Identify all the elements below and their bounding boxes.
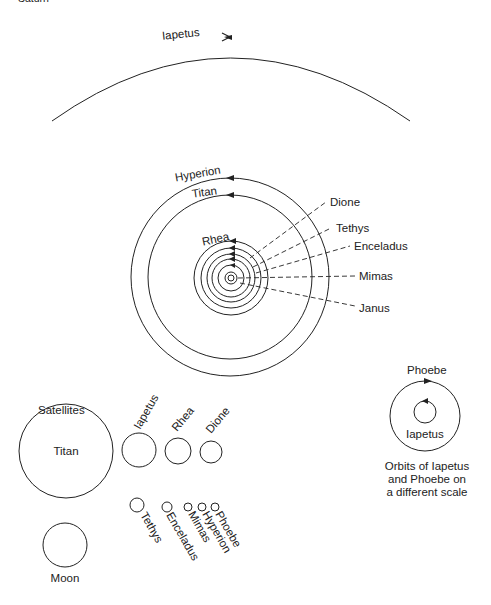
- arrow-icon: [229, 251, 235, 257]
- phoebe-iapetus-inset: Phoebe Iapetus Orbits of Iapetus and Pho…: [385, 364, 470, 498]
- iapetus-body-label: Iapetus: [131, 392, 160, 431]
- janus-callout-label: Janus: [359, 302, 390, 314]
- enceladus-callout-line: [256, 246, 350, 273]
- satellite-size-comparison: Satellites Titan Iapetus Rhea Dione Teth…: [19, 392, 243, 584]
- arrow-icon: [229, 256, 235, 262]
- phoebe-orbit: [390, 381, 460, 451]
- hyperion-body: [198, 503, 206, 511]
- arrow-icon: [226, 192, 234, 198]
- dione-callout-label: Dione: [330, 196, 360, 208]
- titan-body-label: Titan: [53, 445, 78, 457]
- hyperion-orbit: [131, 178, 329, 376]
- arrow-icon: [229, 245, 235, 251]
- rhea-body-label: Rhea: [169, 404, 196, 433]
- enceladus-callout-label: Enceladus: [354, 240, 408, 252]
- phoebe-inset-label: Phoebe: [407, 364, 447, 376]
- mimas-body: [184, 503, 192, 511]
- janus-callout-line: [240, 283, 355, 306]
- iapetus-orbit-label: Iapetus: [161, 26, 200, 42]
- arrow-icon: [226, 175, 234, 181]
- phoebe-body: [211, 503, 219, 511]
- enceladus-body: [162, 502, 172, 512]
- titan-orbit-label: Titan: [191, 184, 218, 199]
- cropped-title: Saturn: [18, 0, 49, 4]
- saturn-satellite-diagram: Saturn Iapetus Hyperion Titan Rhea: [0, 0, 491, 605]
- inset-caption-line-1: Orbits of Iapetus: [385, 460, 470, 472]
- moon-body: [43, 523, 87, 567]
- tethys-callout-label: Tethys: [336, 222, 369, 234]
- inset-caption-line-2: and Phoebe on: [388, 473, 466, 485]
- iapetus-body: [122, 433, 156, 467]
- iapetus-inset-label: Iapetus: [406, 428, 444, 440]
- janus-orbit: [225, 272, 237, 284]
- inset-caption-line-3: a different scale: [387, 486, 468, 498]
- iapetus-inset-orbit: [414, 401, 436, 423]
- inner-orbit-system: Hyperion Titan Rhea Dione Tethys Encelad…: [131, 164, 408, 376]
- mimas-callout-label: Mimas: [359, 270, 393, 282]
- rhea-body: [165, 438, 191, 464]
- mimas-callout-line: [238, 276, 355, 278]
- iapetus-orbit-arc: Iapetus: [52, 26, 410, 121]
- hyperion-orbit-label: Hyperion: [174, 164, 221, 184]
- arrow-icon: [424, 378, 432, 384]
- rhea-orbit-label: Rhea: [201, 230, 231, 248]
- arrow-icon: [422, 398, 428, 404]
- dione-body: [200, 441, 222, 463]
- tethys-body-label: Tethys: [138, 510, 165, 545]
- dione-callout-line: [250, 202, 326, 258]
- arrow-icon: [229, 238, 236, 244]
- dione-body-label: Dione: [203, 405, 232, 436]
- tethys-body: [130, 498, 144, 512]
- saturn-body: [228, 275, 234, 281]
- moon-body-label: Moon: [51, 572, 80, 584]
